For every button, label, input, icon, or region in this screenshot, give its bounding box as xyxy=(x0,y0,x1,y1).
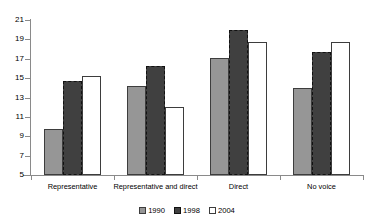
y-axis-tick-label: 15 xyxy=(4,74,24,82)
legend-label: 2004 xyxy=(218,206,235,215)
y-axis-tick-label: 5 xyxy=(4,171,24,179)
legend-item-1998[interactable]: 1998 xyxy=(174,206,200,215)
bar-1998-representative-and-direct xyxy=(146,66,165,175)
legend-swatch-1990-icon xyxy=(139,207,146,214)
x-axis-tick xyxy=(114,175,115,180)
y-axis-tick-label: 9 xyxy=(4,132,24,140)
bar-1990-representative-and-direct xyxy=(127,86,146,175)
x-axis-line xyxy=(23,175,364,176)
bar-2004-no-voice xyxy=(331,42,350,175)
bar-2004-representative xyxy=(82,76,101,175)
legend-label: 1990 xyxy=(148,206,165,215)
plot-area xyxy=(31,20,363,175)
y-axis-tick-label: 21 xyxy=(4,16,24,24)
bar-1998-direct xyxy=(229,30,248,175)
legend-swatch-2004-icon xyxy=(209,207,216,214)
y-axis-tick-label: 11 xyxy=(4,113,24,121)
y-axis-tick-label: 13 xyxy=(4,94,24,102)
x-axis-tick xyxy=(197,175,198,180)
x-axis-tick xyxy=(31,175,32,180)
bar-2004-direct xyxy=(248,42,267,175)
bar-1990-direct xyxy=(210,58,229,175)
y-axis-tick-label: 17 xyxy=(4,55,24,63)
legend-item-1990[interactable]: 1990 xyxy=(139,206,165,215)
bar-2004-representative-and-direct xyxy=(165,107,184,175)
x-axis-tick xyxy=(363,175,364,180)
y-axis-tick-label: 7 xyxy=(4,152,24,160)
bar-1990-no-voice xyxy=(293,88,312,175)
x-axis-label-no-voice: No voice xyxy=(274,182,369,191)
x-axis-label-representative: Representative xyxy=(25,182,120,191)
legend-label: 1998 xyxy=(183,206,200,215)
bar-1998-representative xyxy=(63,81,82,175)
x-axis-label-representative-and-direct: Representative and direct xyxy=(108,182,203,191)
x-axis-label-direct: Direct xyxy=(191,182,286,191)
chart-legend: 199019982004 xyxy=(0,206,374,215)
y-axis-tick-label: 19 xyxy=(4,35,24,43)
x-axis-tick xyxy=(280,175,281,180)
legend-swatch-1998-icon xyxy=(174,207,181,214)
bar-chart: 579111315171921 RepresentativeRepresenta… xyxy=(0,0,374,224)
bar-1990-representative xyxy=(44,129,63,176)
legend-item-2004[interactable]: 2004 xyxy=(209,206,235,215)
bar-1998-no-voice xyxy=(312,52,331,175)
